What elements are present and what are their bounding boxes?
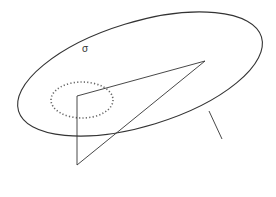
vector-R-line bbox=[77, 61, 205, 96]
surface-integral-diagram: σ → R → r → r' → ds → O bbox=[0, 0, 276, 197]
dotted-region-ellipse bbox=[51, 82, 113, 118]
sigma-text: σ bbox=[82, 43, 88, 54]
surface-ellipse bbox=[3, 0, 276, 161]
ds-pointer-line bbox=[209, 111, 222, 139]
sigma-label: σ bbox=[82, 44, 88, 54]
diagram-canvas bbox=[0, 0, 276, 197]
